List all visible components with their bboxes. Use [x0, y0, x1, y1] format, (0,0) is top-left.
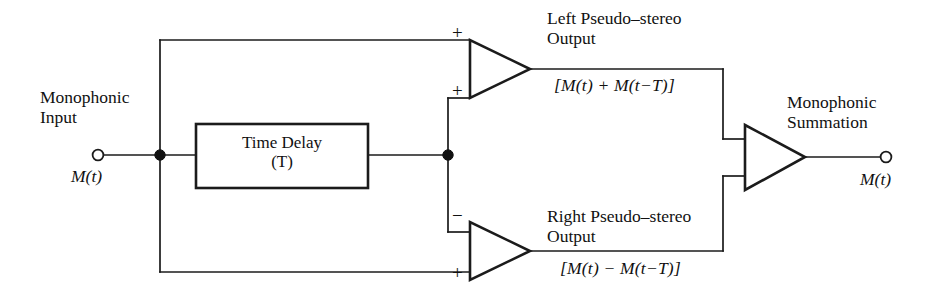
- left-output-label-line1: Left Pseudo–stereo: [547, 9, 682, 29]
- left-output-equation: [M(t) + M(t−T)]: [554, 76, 675, 96]
- left-output-label-line2: Output: [547, 29, 596, 49]
- wiring-layer: [0, 0, 934, 307]
- summation-output-signal: M(t): [860, 170, 891, 190]
- delayed-junction-dot: [443, 150, 453, 160]
- summation-amplifier-triangle[interactable]: [745, 125, 805, 190]
- time-delay-parameter: (T): [196, 152, 368, 171]
- time-delay-label: Time Delay: [196, 133, 368, 152]
- right-amp-top-input-sign: −: [452, 205, 463, 226]
- left-amp-top-input-sign: +: [452, 22, 463, 43]
- left-amplifier-triangle[interactable]: [470, 40, 530, 98]
- right-output-label-line1: Right Pseudo–stereo: [547, 207, 691, 227]
- summation-label-line1: Monophonic: [787, 93, 876, 113]
- left-amp-bottom-input-sign: +: [452, 80, 463, 101]
- input-label-line2: Input: [40, 108, 77, 128]
- input-signal-label: M(t): [71, 167, 102, 187]
- input-label-line1: Monophonic: [40, 88, 129, 108]
- right-amplifier-triangle[interactable]: [470, 222, 530, 280]
- summation-label-line2: Summation: [787, 113, 868, 133]
- input-terminal-circle[interactable]: [93, 150, 104, 161]
- right-amp-bottom-input-sign: +: [452, 262, 463, 283]
- right-output-equation: [M(t) − M(t−T)]: [560, 259, 681, 279]
- output-terminal-circle[interactable]: [881, 152, 892, 163]
- right-output-label-line2: Output: [547, 227, 596, 247]
- signal-flow-diagram: Monophonic Input M(t) Time Delay (T) + +…: [0, 0, 934, 307]
- input-junction-dot: [155, 150, 165, 160]
